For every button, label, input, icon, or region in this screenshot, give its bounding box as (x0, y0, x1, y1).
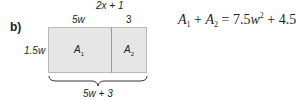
area-equation: A1 + A2 = 7.5w2 + 4.5w (178, 11, 296, 29)
bottom-length-label: 5w + 3 (83, 88, 113, 99)
